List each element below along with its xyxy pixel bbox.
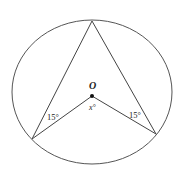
chord-top-to-bottom-left (32, 21, 92, 139)
center-label: O (89, 80, 96, 91)
radius-to-bottom-right (92, 96, 156, 134)
left-angle-label: 15° (47, 112, 59, 122)
center-angle-label: x° (88, 103, 97, 112)
diagram-canvas: O x° 15° 15° (0, 0, 180, 171)
right-angle-label: 15° (129, 110, 141, 120)
chord-top-to-bottom-right (92, 21, 156, 134)
circle-diagram: O x° 15° 15° (0, 0, 180, 171)
circle (12, 20, 172, 164)
radius-to-bottom-left (32, 96, 92, 139)
center-point (90, 94, 94, 98)
